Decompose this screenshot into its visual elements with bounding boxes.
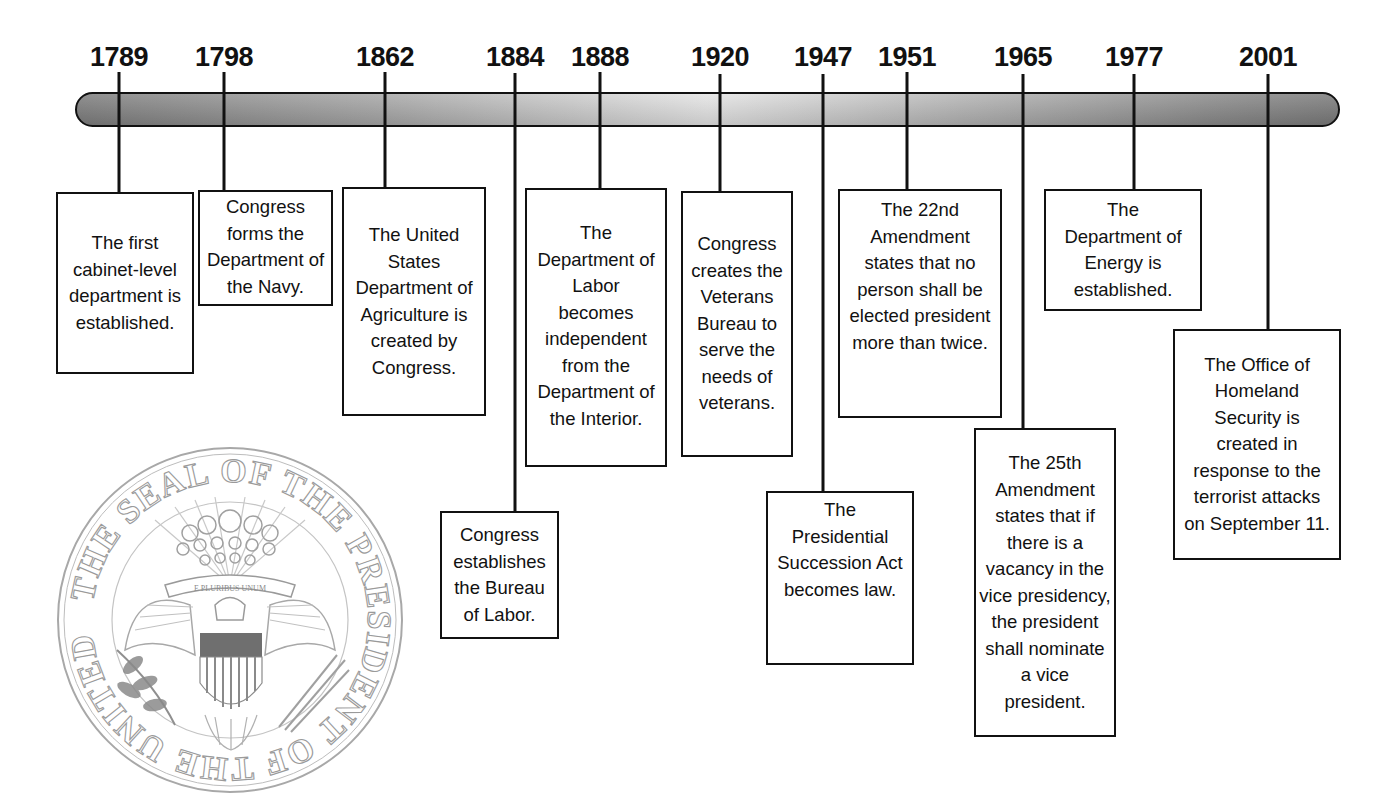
event-text-1884: Congress establishes the Bureau of Labor… [444,522,555,628]
year-label-1947: 1947 [794,42,852,73]
event-text-1965: The 25th Amendment states that if there … [978,450,1112,715]
connector-1884 [514,73,517,512]
year-label-1798: 1798 [195,42,253,73]
year-label-1888: 1888 [571,42,629,73]
connector-1789 [118,72,121,193]
year-label-1789: 1789 [90,42,148,73]
event-text-1920: Congress creates the Veterans Bureau to … [685,231,789,417]
event-text-1789: The first cabinet-level department is es… [60,230,190,336]
year-label-2001: 2001 [1239,42,1297,73]
event-box-1965: The 25th Amendment states that if there … [974,428,1116,737]
event-box-1977: The Department of Energy is established. [1044,189,1202,311]
year-label-1977: 1977 [1105,42,1163,73]
year-label-1862: 1862 [356,42,414,73]
event-box-1888: The Department of Labor becomes independ… [525,188,667,467]
connector-1947 [822,74,825,492]
event-text-1947: The Presidential Succession Act becomes … [774,497,906,603]
event-box-1947: The Presidential Succession Act becomes … [766,491,914,665]
event-box-1920: Congress creates the Veterans Bureau to … [681,191,793,457]
event-text-1951: The 22nd Amendment states that no person… [846,197,994,356]
connector-1888 [599,72,602,189]
connector-1862 [384,72,387,188]
year-label-1884: 1884 [486,42,544,73]
event-box-1798: Congress forms the Department of the Nav… [198,190,333,306]
event-box-1884: Congress establishes the Bureau of Labor… [440,511,559,639]
year-label-1965: 1965 [994,42,1052,73]
timeline-bar [75,92,1340,127]
connector-1951 [906,72,909,190]
event-box-1789: The first cabinet-level department is es… [56,192,194,374]
connector-2001 [1267,74,1270,330]
event-text-1862: The United States Department of Agricult… [348,222,480,381]
seal-motto: E PLURIBUS UNUM [194,584,266,593]
event-box-2001: The Office of Homeland Security is creat… [1173,329,1341,560]
event-text-2001: The Office of Homeland Security is creat… [1183,352,1331,538]
year-label-1920: 1920 [691,42,749,73]
connector-1920 [719,74,722,192]
connector-1798 [223,72,226,191]
presidential-seal-icon: THE SEAL OF THE PRESIDENT OF THE UNITED … [55,445,405,795]
event-text-1888: The Department of Labor becomes independ… [533,220,659,432]
event-box-1951: The 22nd Amendment states that no person… [838,189,1002,418]
connector-1965 [1022,74,1025,429]
connector-1977 [1133,74,1136,190]
event-box-1862: The United States Department of Agricult… [342,187,486,416]
year-label-1951: 1951 [878,42,936,73]
event-text-1977: The Department of Energy is established. [1058,197,1188,303]
event-text-1798: Congress forms the Department of the Nav… [206,194,325,300]
